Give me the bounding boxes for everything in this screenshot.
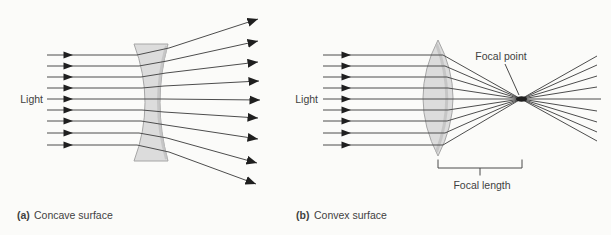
ray-arrowhead	[342, 142, 352, 149]
ray-arrowhead	[64, 63, 74, 70]
ray-arrowhead	[64, 118, 74, 125]
ray-arrowhead	[342, 74, 352, 81]
ray-arrowhead	[64, 74, 74, 81]
ray-arrowhead	[64, 107, 74, 114]
ray-arrowhead	[342, 85, 352, 92]
focal-length-label: Focal length	[453, 179, 510, 191]
focal-length-bracket	[438, 160, 522, 176]
ray-arrowhead	[342, 130, 352, 137]
panel-a-concave: Light (a) Concave surface	[17, 19, 260, 221]
caption-a-text: Concave surface	[34, 209, 113, 221]
caption-b-tag: (b)	[296, 209, 309, 221]
ray-arrowhead	[342, 96, 352, 103]
rays-convex	[323, 52, 601, 149]
ray-arrowhead	[64, 130, 74, 137]
light-ray	[323, 56, 597, 145]
panel-b-convex: Light Focal point Focal length (b) Conve…	[295, 40, 601, 221]
ray-arrowhead	[64, 96, 74, 103]
focal-point-marker	[516, 96, 527, 102]
focal-point-leader-line	[505, 64, 519, 95]
light-ray	[323, 55, 597, 141]
ray-arrowhead	[342, 118, 352, 125]
ray-arrowhead	[64, 85, 74, 92]
convex-lens	[423, 40, 453, 156]
ray-arrowhead	[342, 52, 352, 59]
caption-b-text: Convex surface	[314, 209, 387, 221]
lens-diagram: Light (a) Concave surface Light Focal po…	[0, 0, 611, 235]
caption-a-tag: (a)	[17, 209, 30, 221]
light-label-b: Light	[295, 93, 318, 105]
ray-arrowhead	[64, 52, 74, 59]
figure-svg: Light (a) Concave surface Light Focal po…	[0, 0, 611, 235]
light-label-a: Light	[20, 93, 43, 105]
ray-arrowhead	[342, 63, 352, 70]
ray-arrowhead	[342, 107, 352, 114]
focal-point-label: Focal point	[475, 50, 526, 62]
ray-arrowhead	[64, 142, 74, 149]
